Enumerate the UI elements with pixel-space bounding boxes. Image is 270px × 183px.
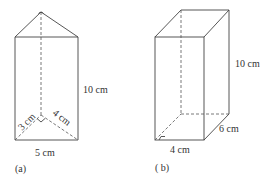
depth-label-b: 6 cm	[219, 123, 239, 134]
rectangular-prism: 10 cm 6 cm 4 cm ( b)	[155, 10, 260, 174]
right-angle-marker-b	[159, 137, 165, 141]
height-label-a: 10 cm	[83, 84, 108, 95]
width-label-b: 4 cm	[170, 144, 190, 155]
right-angle-marker	[37, 119, 45, 123]
base-label-a: 5 cm	[35, 147, 55, 158]
caption-a: (a)	[15, 163, 26, 175]
top-left-depth-edge	[155, 10, 181, 37]
hidden-bottom-left-depth	[155, 114, 181, 140]
height-label-b: 10 cm	[235, 58, 260, 69]
leg-left-label: 3 cm	[16, 111, 38, 133]
top-triangle-sides	[15, 12, 78, 37]
top-right-depth-edge	[204, 10, 229, 37]
leg-right-label: 4 cm	[51, 107, 73, 128]
front-face	[155, 37, 204, 140]
diagram-canvas: 10 cm 5 cm 3 cm 4 cm (a) 10 cm 6 cm 4 cm…	[0, 0, 270, 183]
triangular-prism: 10 cm 5 cm 3 cm 4 cm (a)	[15, 12, 108, 175]
caption-b: ( b)	[155, 162, 169, 174]
